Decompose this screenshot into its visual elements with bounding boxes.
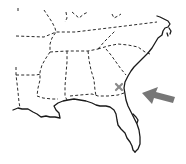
border-ms-al — [65, 51, 67, 100]
border-north-fragment-3 — [112, 14, 121, 18]
border-tn-south — [50, 49, 98, 52]
border-nc-sc — [98, 44, 150, 54]
map-canvas — [0, 0, 186, 164]
border-al-ga — [88, 51, 96, 96]
border-la-north — [16, 74, 41, 75]
x-marker — [116, 84, 122, 90]
border-fl-north — [70, 93, 124, 96]
atlantic-coastline — [124, 16, 170, 152]
border-ms-river-north — [44, 10, 56, 52]
border-north-fragment-2 — [65, 12, 88, 22]
arrow-left-icon — [142, 87, 175, 104]
border-sc-ga — [106, 49, 126, 75]
border-la-west — [16, 67, 20, 108]
outer-banks-detail — [167, 28, 171, 36]
southeast-us-map — [0, 0, 186, 164]
border-la-ms-south — [37, 96, 58, 99]
gulf-coastline — [13, 99, 135, 152]
border-nc-tn — [98, 31, 115, 49]
border-tn-ky — [16, 22, 157, 37]
